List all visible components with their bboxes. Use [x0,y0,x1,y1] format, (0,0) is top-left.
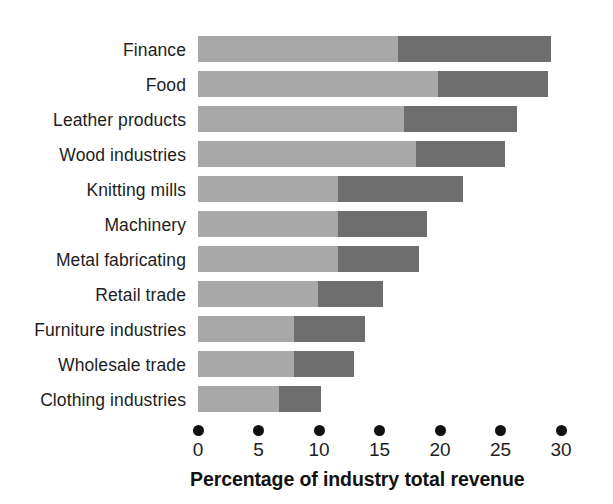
bar-segment-light [198,246,338,272]
bar-segment-dark [294,351,355,377]
bar-row [198,281,383,307]
category-label-retail-trade: Retail trade [6,282,186,308]
category-label-furniture-industries: Furniture industries [6,317,186,343]
category-label-wholesale-trade: Wholesale trade [6,352,186,378]
category-label-leather-products: Leather products [6,107,186,133]
bar-segment-light [198,36,398,62]
bar-row [198,316,365,342]
bar-segment-light [198,106,404,132]
bar-segment-dark [338,176,463,202]
bar-row [198,71,548,97]
x-axis-tick-label: 30 [531,439,591,461]
x-axis-tick-dot [314,425,325,436]
category-label-knitting-mills: Knitting mills [6,177,186,203]
x-axis-tick-dot [435,425,446,436]
bar-segment-dark [318,281,383,307]
bar-segment-dark [294,316,365,342]
bar-row [198,246,419,272]
bar-segment-dark [416,141,506,167]
x-axis-tick-label: 10 [289,439,349,461]
bar-segment-dark [404,106,518,132]
bar-row [198,211,427,237]
category-label-metal-fabricating: Metal fabricating [6,247,186,273]
bar-segment-light [198,141,416,167]
x-axis-tick-dot [374,425,385,436]
bar-segment-light [198,176,338,202]
x-axis-tick-dot [193,425,204,436]
x-axis-tick-label: 0 [168,439,228,461]
bar-segment-light [198,281,318,307]
bar-row [198,106,517,132]
bar-segment-light [198,386,279,412]
stacked-bar-chart: Finance Food Leather products Wood indus… [0,0,613,504]
x-axis-tick-label: 20 [410,439,470,461]
x-axis-tick-label: 25 [471,439,531,461]
x-axis-title: Percentage of industry total revenue [190,468,525,491]
x-axis-tick-label: 15 [350,439,410,461]
bar-row [198,351,354,377]
bar-row [198,36,551,62]
bar-segment-dark [338,246,419,272]
category-label-machinery: Machinery [6,212,186,238]
bar-segment-light [198,351,294,377]
x-axis-tick-dot [253,425,264,436]
bar-segment-dark [438,71,548,97]
bar-segment-dark [279,386,321,412]
bar-row [198,386,321,412]
bar-segment-light [198,71,438,97]
category-label-finance: Finance [6,37,186,63]
category-label-clothing-industries: Clothing industries [6,387,186,413]
category-label-wood-industries: Wood industries [6,142,186,168]
x-axis-tick-label: 5 [229,439,289,461]
bar-segment-dark [398,36,552,62]
category-label-food: Food [6,72,186,98]
x-axis-tick-dot [495,425,506,436]
bar-row [198,176,463,202]
bar-segment-dark [338,211,426,237]
x-axis-tick-dot [556,425,567,436]
bar-segment-light [198,316,294,342]
bar-segment-light [198,211,338,237]
bar-row [198,141,505,167]
